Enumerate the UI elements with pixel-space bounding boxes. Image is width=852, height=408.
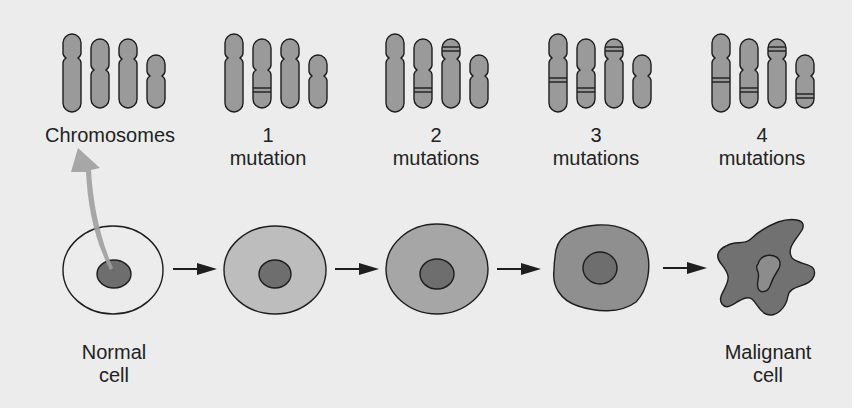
cell-1-mutation bbox=[224, 226, 326, 314]
nucleus bbox=[259, 260, 291, 288]
chromosome-set-normal bbox=[63, 34, 165, 112]
nucleus bbox=[583, 252, 617, 284]
cell-2-mutations bbox=[386, 224, 488, 314]
label-3-mutations: 3 mutations bbox=[553, 124, 640, 170]
label-text: cell bbox=[725, 364, 812, 387]
nucleus bbox=[97, 260, 131, 288]
label-text: Malignant bbox=[725, 341, 812, 364]
label-text: Normal bbox=[82, 341, 146, 364]
label-text: Chromosomes bbox=[45, 124, 175, 147]
arrow-right-icon bbox=[173, 263, 217, 275]
label-text: cell bbox=[82, 364, 146, 387]
mutation-count: 2 bbox=[393, 124, 480, 147]
label-normal-cell: Normal cell bbox=[82, 341, 146, 387]
label-text: mutations bbox=[553, 147, 640, 170]
chromosome-set-4-mutations bbox=[712, 34, 814, 112]
label-text: mutations bbox=[393, 147, 480, 170]
mutation-count: 3 bbox=[553, 124, 640, 147]
label-malignant-cell: Malignant cell bbox=[725, 341, 812, 387]
mutation-count: 1 bbox=[230, 124, 307, 147]
mutation-count: 4 bbox=[719, 124, 806, 147]
chromosome-set-2-mutations bbox=[386, 34, 488, 112]
label-text: mutations bbox=[719, 147, 806, 170]
chromosome-set-3-mutations bbox=[549, 34, 651, 112]
arrow-right-icon bbox=[335, 263, 379, 275]
label-1-mutation: 1 mutation bbox=[230, 124, 307, 170]
arrow-right-icon bbox=[497, 263, 541, 275]
normal-cell bbox=[63, 226, 163, 314]
arrow-right-icon bbox=[663, 262, 707, 274]
label-text: mutation bbox=[230, 147, 307, 170]
malignant-cell bbox=[718, 220, 815, 315]
chromosome-set-1-mutation bbox=[225, 34, 327, 112]
cell-3-mutations bbox=[554, 225, 649, 311]
nucleus bbox=[420, 259, 454, 289]
label-chromosomes: Chromosomes bbox=[45, 124, 175, 147]
label-2-mutations: 2 mutations bbox=[393, 124, 480, 170]
label-4-mutations: 4 mutations bbox=[719, 124, 806, 170]
